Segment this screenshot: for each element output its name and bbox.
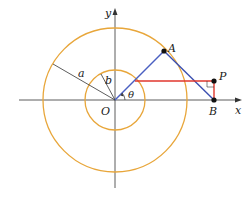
segment-oa [115,51,164,100]
x-axis-label: x [235,104,242,117]
point-a-dot [161,48,166,53]
diagram-canvas: y x O A P B a b θ [0,0,252,198]
point-p-dot [211,78,216,83]
y-axis-arrow-icon [113,8,118,15]
radius-b-label: b [105,74,112,87]
angle-theta-label: θ [128,89,134,100]
point-b-label: B [208,105,217,118]
origin-label: O [101,105,110,118]
y-axis-label: y [104,7,112,20]
radius-a-label: a [78,67,85,80]
x-axis-arrow-icon [235,98,242,103]
point-b-dot [211,97,216,102]
point-p-label: P [218,70,227,83]
ellipse-construction-diagram: y x O A P B a b θ [0,0,252,198]
segment-ab [164,51,214,100]
point-a-label: A [167,42,176,55]
